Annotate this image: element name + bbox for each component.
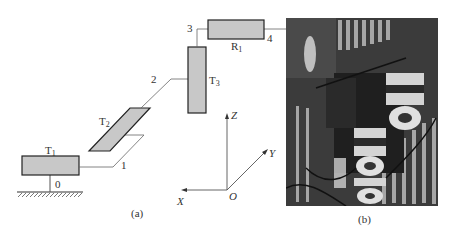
- axis-origin-label: O: [229, 190, 237, 202]
- node-2: 2: [151, 73, 157, 85]
- axis-y-label: Y: [269, 147, 277, 159]
- node-0: 0: [55, 178, 61, 190]
- node-4: 4: [267, 32, 273, 44]
- robot-photo-image: [286, 18, 438, 206]
- label-t1: T1: [45, 144, 56, 158]
- caption-a: (a): [131, 207, 144, 220]
- node-3: 3: [187, 22, 193, 34]
- joint-t3-block: [188, 47, 206, 113]
- joint-t1-block: [22, 156, 79, 175]
- figure: T1 T2 T3 R1 0 1 2 3 4 Z Y X O (a): [0, 0, 457, 239]
- label-r1: R1: [231, 40, 242, 54]
- caption-b: (b): [358, 213, 371, 225]
- axis-z-label: Z: [231, 109, 238, 121]
- node-1: 1: [121, 159, 127, 171]
- ground-hatch-icon: [17, 192, 83, 197]
- label-t3: T3: [209, 74, 220, 88]
- axis-x-label: X: [176, 195, 185, 207]
- panel-b-photo: [286, 18, 438, 206]
- coordinate-axes-icon: [181, 113, 268, 192]
- joint-r1-block: [208, 20, 264, 39]
- label-t2: T2: [99, 115, 110, 129]
